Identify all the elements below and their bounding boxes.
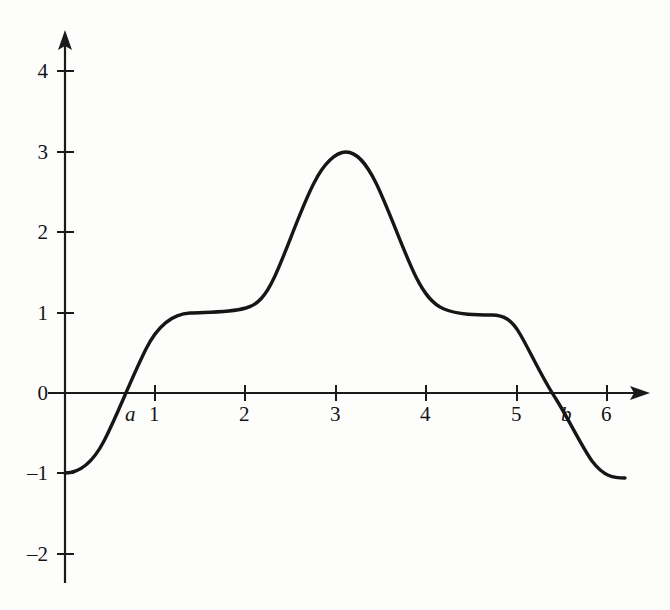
annotation-label-b: b	[561, 404, 572, 425]
y-tick-label-0: 0	[26, 383, 48, 404]
x-tick-label-6: 6	[601, 404, 612, 425]
plot-canvas	[0, 0, 670, 610]
y-tick-label-1: 1	[26, 303, 48, 324]
graph-figure: 4 3 2 1 0 –1 –2 1 2 3 4 5 6 a b	[0, 0, 670, 610]
x-tick-label-5: 5	[511, 404, 522, 425]
function-curve	[65, 152, 625, 478]
y-axis-group	[57, 30, 74, 583]
y-tick-label-minus-2: –2	[16, 544, 48, 565]
x-tick-label-3: 3	[330, 404, 341, 425]
y-tick-label-4: 4	[26, 61, 48, 82]
annotation-label-a: a	[125, 404, 136, 425]
y-tick-label-3: 3	[26, 142, 48, 163]
y-tick-label-2: 2	[26, 222, 48, 243]
y-tick-label-minus-1: –1	[16, 463, 48, 484]
x-tick-label-4: 4	[420, 404, 431, 425]
x-axis-group	[48, 385, 650, 401]
x-tick-label-1: 1	[149, 404, 160, 425]
x-tick-label-2: 2	[239, 404, 250, 425]
